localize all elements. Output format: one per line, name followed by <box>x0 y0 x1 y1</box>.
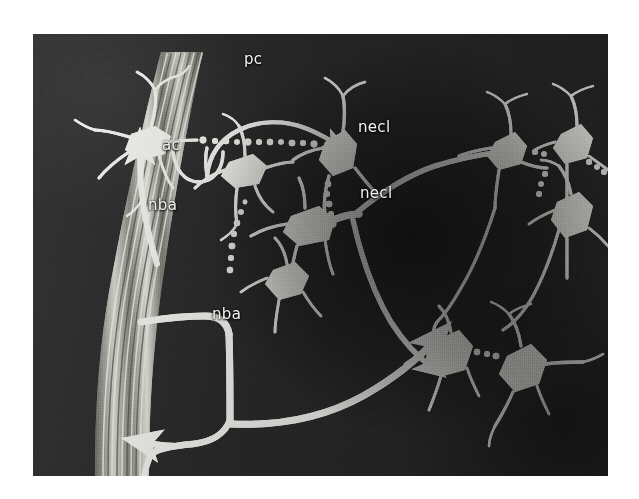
label-ac: ac <box>162 138 180 153</box>
label-necl-upper: necl <box>358 120 390 135</box>
necl-line-lower <box>353 220 433 368</box>
neuron-lower-middle <box>241 238 321 332</box>
pc-arc-terminal <box>206 148 208 176</box>
label-nba-lower: nba <box>212 307 241 322</box>
label-nba-upper: nba <box>148 198 177 213</box>
beaded-axon-right-middle <box>536 171 548 197</box>
bottom-branch-node <box>151 420 230 454</box>
neuron-top-middle-a <box>195 114 293 240</box>
beaded-axon-bottom-right <box>474 349 500 360</box>
bottom-long-arrow-to-right <box>231 338 437 424</box>
trunk-branch-stem <box>229 334 230 420</box>
neuron-bottom-right-b <box>489 302 603 446</box>
right-loop-fiber <box>437 208 495 322</box>
neuron-bottom-right-a <box>405 306 479 410</box>
label-necl-lower: necl <box>360 186 392 201</box>
neural-circuit-drawing <box>33 34 608 476</box>
label-pc: pc <box>244 52 262 67</box>
necl-line-upper <box>355 152 503 214</box>
beaded-axon-right-top <box>532 149 547 157</box>
bottom-arrow-left <box>141 442 173 446</box>
figure-root: pc ac nba nba necl necl <box>0 0 639 499</box>
neuron-right-top-b <box>535 84 608 198</box>
photographic-plate: pc ac nba nba necl necl <box>33 34 608 476</box>
